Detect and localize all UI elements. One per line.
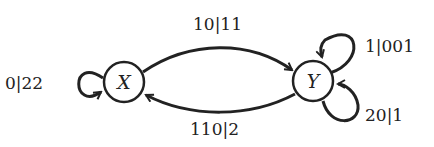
edge-label-x-y: 10|11 <box>193 14 242 34</box>
edge-label-x-x: 0|22 <box>5 73 43 93</box>
edge-x-x <box>79 72 103 96</box>
state-diagram: 0|22 10|11 110|2 1|001 20|1 X Y <box>0 0 434 147</box>
node-y: Y <box>293 61 333 101</box>
node-x: X <box>104 62 144 102</box>
edge-label-y-y-lower: 20|1 <box>365 105 403 125</box>
edge-label-y-x: 110|2 <box>190 119 239 139</box>
edge-x-y <box>143 48 292 72</box>
node-x-label: X <box>115 71 132 93</box>
edge-label-y-y-upper: 1|001 <box>365 36 414 56</box>
edge-y-x <box>146 94 295 112</box>
